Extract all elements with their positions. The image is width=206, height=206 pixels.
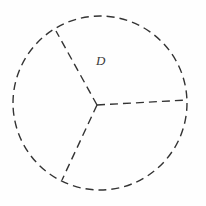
region-label-d: D <box>96 54 105 67</box>
geometry-figure: D <box>0 0 206 206</box>
radius-lower-left <box>62 105 97 180</box>
radius-upper-left <box>56 31 97 105</box>
dashed-circle-boundary <box>13 16 187 190</box>
radius-right <box>97 100 187 105</box>
figure-canvas <box>0 0 206 206</box>
